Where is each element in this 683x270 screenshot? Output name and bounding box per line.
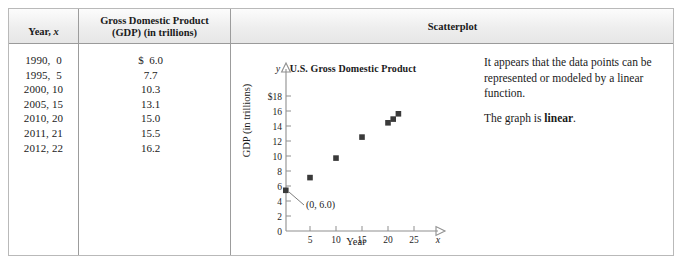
- header-year: Year, x: [9, 9, 78, 44]
- table-row: 1995, 5: [9, 68, 78, 83]
- column-year-values: 1990, 0 1995, 5 2000, 10 2005, 15 2010, …: [9, 45, 78, 155]
- y-tick-label: 16: [273, 107, 283, 117]
- chart-annotation: (0, 6.0): [289, 192, 335, 211]
- table-row: 2010, 20: [9, 111, 78, 126]
- annotation-label: (0, 6.0): [306, 199, 335, 211]
- explanation-paragraph-1: It appears that the data points can be r…: [484, 55, 664, 102]
- table-row: 1990, 0: [9, 53, 78, 68]
- chart-y-tick-labels: $18 16 14 12 10 8 6 4 2 0: [268, 92, 283, 237]
- y-tick-label: $18: [268, 92, 283, 102]
- x-axis-variable: x: [435, 234, 441, 245]
- explanation-suffix: .: [573, 112, 576, 124]
- table-row: 2011, 21: [9, 126, 78, 141]
- y-axis-variable: y: [275, 63, 281, 74]
- table-row: 15.5: [79, 126, 230, 141]
- table-row: 16.2: [79, 141, 230, 156]
- table-row: 15.0: [79, 111, 230, 126]
- header-scatterplot: Scatterplot: [231, 9, 674, 44]
- x-tick-label: 20: [383, 235, 393, 245]
- y-tick-label: 10: [273, 152, 283, 162]
- explanation-prefix: The graph is: [484, 112, 544, 124]
- y-tick-label: 6: [277, 182, 282, 192]
- explanation-bold-term: linear: [544, 112, 573, 124]
- table-row: 10.3: [79, 82, 230, 97]
- table-row: 13.1: [79, 97, 230, 112]
- table-row: $ 6.0: [79, 53, 230, 68]
- header-year-text: Year,: [28, 26, 53, 37]
- explanation-panel: It appears that the data points can be r…: [484, 55, 664, 135]
- header-gdp: Gross Domestic Product (GDP) (in trillio…: [79, 9, 230, 44]
- y-tick-label: 12: [273, 137, 283, 147]
- table-row: 2000, 10: [9, 82, 78, 97]
- y-tick-label: 4: [277, 197, 282, 207]
- table-row: 7.7: [79, 68, 230, 83]
- scatter-plot-svg: $18 16 14 12 10 8 6 4 2 0: [231, 45, 461, 245]
- gdp-table: Year, x Gross Domestic Product (GDP) (in…: [8, 8, 674, 256]
- y-tick-label: 0: [277, 227, 282, 237]
- table-row: 2005, 15: [9, 97, 78, 112]
- data-point: [333, 155, 339, 161]
- data-point: [283, 188, 289, 194]
- scatterplot-cell: U.S. Gross Domestic Product GDP (in tril…: [231, 45, 674, 255]
- data-point: [390, 116, 396, 122]
- x-tick-label: 5: [308, 235, 313, 245]
- page-root: Year, x Gross Domestic Product (GDP) (in…: [0, 0, 683, 270]
- data-point: [359, 134, 365, 140]
- explanation-paragraph-2: The graph is linear.: [484, 111, 664, 127]
- table-row: 2012, 22: [9, 141, 78, 156]
- y-tick-label: 14: [273, 122, 283, 132]
- y-tick-label: 8: [277, 167, 282, 177]
- header-gdp-line1: Gross Domestic Product: [100, 15, 209, 27]
- chart-x-ticks: [310, 226, 414, 231]
- chart-data-points: [283, 111, 401, 193]
- chart-x-tick-labels: 5 10 15 20 25: [308, 235, 419, 245]
- x-tick-label: 15: [357, 235, 367, 245]
- column-gdp-values: $ 6.0 7.7 10.3 13.1 15.0 15.5 16.2: [79, 45, 230, 155]
- data-point: [307, 175, 313, 181]
- y-tick-label: 2: [277, 212, 282, 222]
- x-tick-label: 10: [331, 235, 341, 245]
- chart-y-ticks: [286, 96, 291, 216]
- data-point: [385, 120, 391, 126]
- x-tick-label: 25: [409, 235, 419, 245]
- header-gdp-line2: (GDP) (in trillions): [112, 27, 197, 39]
- header-year-variable: x: [54, 26, 59, 37]
- data-point: [396, 111, 402, 117]
